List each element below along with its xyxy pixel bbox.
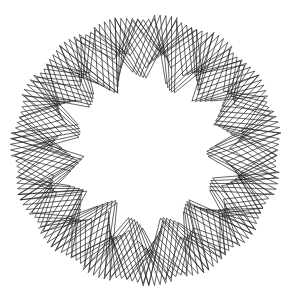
spirograph-curve (10, 15, 281, 286)
spirograph-figure (0, 0, 288, 299)
